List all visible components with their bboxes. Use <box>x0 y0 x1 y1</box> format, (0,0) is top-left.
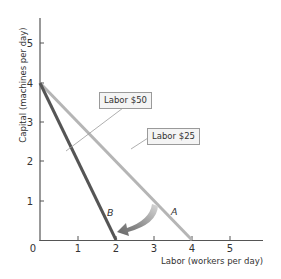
y-tick-label-2: 2 <box>27 156 33 167</box>
x-tick-label-5: 5 <box>227 243 233 254</box>
shift-arrow-icon <box>117 204 158 236</box>
callout-leader-25 <box>131 138 148 149</box>
x-ticks <box>78 236 230 240</box>
point-label-b: B <box>107 207 114 218</box>
origin-label: 0 <box>30 243 36 254</box>
y-axis-title: Capital (machines per day) <box>18 27 28 142</box>
isocost-chart: 1 2 3 4 5 0 1 2 3 4 5 Labor (workers per… <box>0 0 281 279</box>
x-tick-label-3: 3 <box>151 243 157 254</box>
point-label-a: A <box>170 206 178 217</box>
callout-leader-50 <box>66 108 123 151</box>
callout-labor-25: Labor $25 <box>147 128 200 145</box>
y-tick-label-1: 1 <box>27 196 33 207</box>
x-tick-label-4: 4 <box>189 243 195 254</box>
callout-labor-50: Labor $50 <box>99 92 152 109</box>
x-tick-label-2: 2 <box>113 243 119 254</box>
x-axis-title: Labor (workers per day) <box>161 256 263 266</box>
x-tick-label-1: 1 <box>75 243 81 254</box>
